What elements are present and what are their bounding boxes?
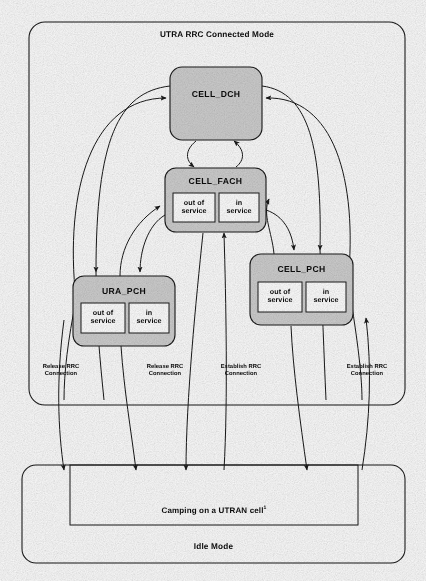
diagram-canvas — [0, 0, 426, 581]
arc-ura-pch-to-dch — [73, 98, 166, 300]
substate-box-cell-pch-in-service[interactable] — [306, 282, 346, 312]
idle-mode-container — [22, 465, 405, 563]
arc-cell-pch-to-idle — [291, 326, 307, 470]
substate-box-ura-pch-in-service[interactable] — [129, 303, 169, 333]
arc-dch-to-fach — [187, 141, 196, 167]
arc-dch-to-cell-pch — [262, 86, 320, 250]
substate-box-cell-fach-out-of-service[interactable] — [173, 193, 215, 222]
substate-box-cell-pch-out-of-service[interactable] — [258, 282, 302, 312]
arc-fach-to-ura-pch — [140, 215, 165, 272]
arc-fach-to-cell-pch — [266, 210, 294, 250]
arc-idle-to-fach-establish — [224, 233, 226, 470]
arc-dch-to-idle-release — [59, 320, 64, 470]
arc-ura-pch-to-idle — [121, 346, 136, 470]
arc-fach-to-dch — [234, 141, 243, 167]
state-box-cell-dch[interactable] — [170, 67, 262, 140]
arc-idle-to-dch-establish — [362, 318, 369, 470]
substate-box-ura-pch-out-of-service[interactable] — [81, 303, 125, 333]
arc-cell-pch-to-fach — [267, 199, 274, 254]
rrc-state-diagram: UTRA RRC Connected Mode CELL_DCH CELL_FA… — [0, 0, 426, 581]
substate-box-cell-fach-in-service[interactable] — [219, 193, 259, 222]
arc-dch-to-ura-pch — [96, 86, 170, 272]
arc-fach-to-idle-release — [186, 233, 203, 470]
camping-on-utran-cell-box — [70, 465, 358, 525]
